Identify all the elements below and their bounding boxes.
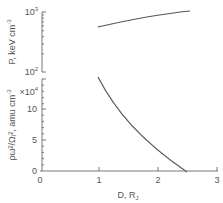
lower-curve bbox=[98, 77, 187, 172]
x-tick-3: 3 bbox=[214, 175, 219, 185]
lower-tick-10: 10 bbox=[27, 104, 37, 114]
lower-tick-5: 5 bbox=[32, 135, 37, 145]
chart: 103 102 P, keV cm-3 10 5 0 ×104 ρω²/Ω bbox=[0, 0, 223, 203]
x-tick-1: 1 bbox=[96, 175, 101, 185]
upper-y-label: P, keV cm-3 bbox=[6, 19, 17, 65]
lower-panel: 10 5 0 ×104 ρω²/Ωᵢ², amu cm-3 bbox=[6, 77, 187, 176]
upper-tick-bottom: 102 bbox=[25, 66, 39, 77]
lower-y-label: ρω²/Ωᵢ², amu cm-3 bbox=[6, 89, 17, 161]
x-tick-2: 2 bbox=[155, 175, 160, 185]
lower-multiplier: ×104 bbox=[19, 86, 38, 97]
upper-curve bbox=[98, 11, 190, 27]
x-axis: 0 1 2 3 D, RJ bbox=[37, 167, 219, 201]
upper-panel: 103 102 P, keV cm-3 bbox=[6, 6, 190, 77]
lower-tick-0: 0 bbox=[32, 166, 37, 176]
upper-tick-top: 103 bbox=[25, 6, 39, 17]
x-axis-label: D, RJ bbox=[118, 190, 139, 201]
x-tick-0: 0 bbox=[37, 175, 42, 185]
